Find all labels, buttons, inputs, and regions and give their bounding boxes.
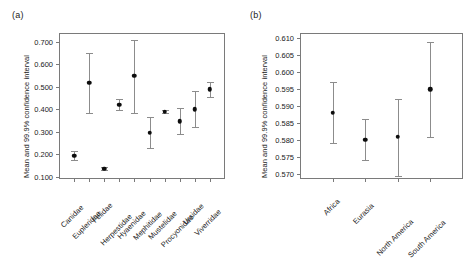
x-tick-mark xyxy=(365,179,366,182)
y-tick-mark xyxy=(297,157,300,158)
y-tick-mark xyxy=(297,72,300,73)
data-point xyxy=(330,111,335,116)
x-tick-mark xyxy=(398,179,399,182)
x-tick-mark xyxy=(150,179,151,182)
x-tick-mark xyxy=(195,179,196,182)
data-point xyxy=(102,166,107,171)
y-tick-label: 0.610 xyxy=(262,34,294,43)
y-tick-mark xyxy=(297,89,300,90)
y-tick-label: 0.585 xyxy=(262,118,294,127)
panel-b: (b) Mean and 99.9% confidence interval 0… xyxy=(238,0,476,254)
error-bar-cap-lower xyxy=(395,176,402,177)
error-bar-cap-lower xyxy=(131,113,138,114)
panel-a-plot-area xyxy=(59,33,225,179)
y-tick-mark xyxy=(56,154,59,155)
error-bar-cap-lower xyxy=(71,160,78,161)
y-tick-label: 0.300 xyxy=(21,127,53,136)
y-tick-mark xyxy=(56,109,59,110)
data-point xyxy=(87,81,92,86)
y-tick-mark xyxy=(297,140,300,141)
error-bar-cap-lower xyxy=(147,148,154,149)
y-tick-label: 0.595 xyxy=(262,85,294,94)
x-tick-mark xyxy=(74,179,75,182)
y-tick-label: 0.580 xyxy=(262,135,294,144)
y-tick-label: 0.400 xyxy=(21,105,53,114)
y-tick-mark xyxy=(56,132,59,133)
y-tick-mark xyxy=(56,64,59,65)
error-bar-cap-lower xyxy=(362,160,369,161)
x-tick-mark xyxy=(165,179,166,182)
data-point xyxy=(428,87,433,92)
error-bar-cap-lower xyxy=(207,97,214,98)
y-tick-label: 0.500 xyxy=(21,82,53,91)
error-bar-cap-upper xyxy=(147,117,154,118)
y-tick-label: 0.200 xyxy=(21,150,53,159)
data-point xyxy=(177,119,182,124)
error-bar-cap-upper xyxy=(116,99,123,100)
error-bar-cap-lower xyxy=(427,137,434,138)
error-bar-cap-upper xyxy=(177,108,184,109)
error-bar-cap-lower xyxy=(86,113,93,114)
y-tick-mark xyxy=(56,42,59,43)
x-tick-mark xyxy=(89,179,90,182)
x-tick-label: Eurasia xyxy=(351,201,376,226)
error-bar-cap-upper xyxy=(86,53,93,54)
y-tick-mark xyxy=(297,174,300,175)
y-tick-label: 0.100 xyxy=(21,172,53,181)
y-tick-mark xyxy=(297,38,300,39)
error-bar-cap-upper xyxy=(330,82,337,83)
y-tick-label: 0.605 xyxy=(262,51,294,60)
y-tick-label: 0.600 xyxy=(262,68,294,77)
y-tick-mark xyxy=(56,177,59,178)
x-tick-mark xyxy=(180,179,181,182)
x-tick-mark xyxy=(430,179,431,182)
error-bar-cap-upper xyxy=(395,99,402,100)
error-bar-cap-upper xyxy=(131,40,138,41)
y-tick-mark xyxy=(297,106,300,107)
panel-b-plot-area xyxy=(300,33,463,179)
x-tick-mark xyxy=(333,179,334,182)
panel-b-label: (b) xyxy=(250,10,262,20)
data-point xyxy=(193,107,198,112)
y-tick-mark xyxy=(297,55,300,56)
error-bar-cap-lower xyxy=(192,127,199,128)
x-tick-label: Felidae xyxy=(91,201,115,225)
x-tick-mark xyxy=(104,179,105,182)
y-tick-label: 0.590 xyxy=(262,102,294,111)
data-point xyxy=(162,109,167,114)
x-tick-mark xyxy=(134,179,135,182)
panel-a: (a) Mean and 99.9% confidence interval 0… xyxy=(0,0,238,254)
data-point xyxy=(396,134,401,139)
y-tick-label: 0.600 xyxy=(21,60,53,69)
error-bar-cap-upper xyxy=(192,91,199,92)
y-tick-mark xyxy=(56,87,59,88)
error-bar-cap-upper xyxy=(362,119,369,120)
y-tick-mark xyxy=(297,123,300,124)
y-tick-label: 0.700 xyxy=(21,37,53,46)
data-point xyxy=(132,74,137,79)
panel-a-y-axis-title: Mean and 99.9% confidence interval xyxy=(22,55,31,178)
error-bar-cap-upper xyxy=(71,151,78,152)
data-point xyxy=(72,153,77,158)
error-bar-cap-lower xyxy=(116,110,123,111)
x-tick-mark xyxy=(119,179,120,182)
error-bar-cap-upper xyxy=(427,42,434,43)
x-tick-label: Africa xyxy=(321,197,341,217)
error-bar-cap-lower xyxy=(177,134,184,135)
y-tick-label: 0.570 xyxy=(262,169,294,178)
y-tick-label: 0.575 xyxy=(262,152,294,161)
data-point xyxy=(363,138,368,143)
error-bar-cap-upper xyxy=(207,82,214,83)
error-bar-cap-lower xyxy=(330,143,337,144)
x-tick-mark xyxy=(210,179,211,182)
panel-a-label: (a) xyxy=(12,10,24,20)
data-point xyxy=(208,87,213,92)
data-point xyxy=(117,102,122,107)
data-point xyxy=(147,131,152,136)
